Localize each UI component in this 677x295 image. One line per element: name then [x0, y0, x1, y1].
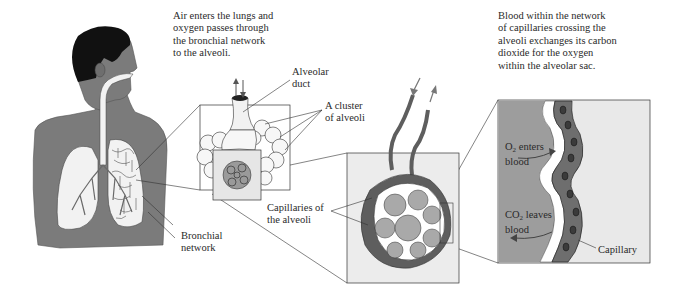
- label-o2-enters: O2 enters blood: [505, 141, 544, 169]
- label-capillaries: Capillaries of the alveoli: [267, 202, 324, 227]
- airway-caption: Air enters the lungs and oxygen passes t…: [173, 10, 273, 60]
- label-capillary: Capillary: [598, 244, 637, 256]
- label-co2-leaves: CO2 leaves blood: [505, 209, 552, 237]
- label-bronchial-network: Bronchial network: [181, 230, 222, 255]
- alveolar-cluster-panel: [197, 78, 290, 200]
- exchange-caption: Blood within the network of capillaries …: [498, 10, 617, 72]
- o2-prefix: O: [505, 141, 513, 152]
- label-alveoli-cluster: A cluster of alveoli: [325, 100, 365, 125]
- human-torso-figure: [33, 26, 167, 248]
- co2-prefix: CO: [505, 209, 520, 220]
- capillary-closeup-panel: [498, 100, 650, 263]
- ear: [95, 63, 105, 77]
- label-alveolar-duct: Alveolar duct: [292, 66, 329, 91]
